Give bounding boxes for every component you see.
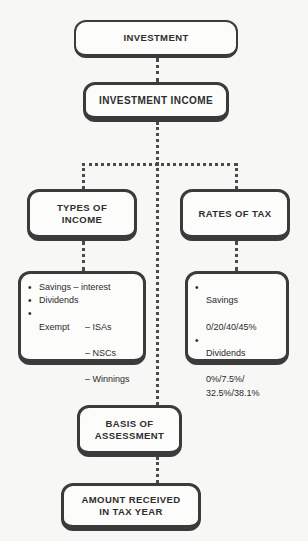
- list-item: • Dividends: [28, 294, 137, 307]
- list-item-exempt-row: Exempt – ISAs: [39, 321, 137, 334]
- node-rates-of-tax-label: RATES OF TAX: [198, 208, 271, 220]
- flowchart-canvas: INVESTMENT INVESTMENT INCOME TYPES OF IN…: [0, 0, 308, 541]
- node-amount-received-label: AMOUNT RECEIVED IN TAX YEAR: [82, 494, 181, 518]
- node-amount-received[interactable]: AMOUNT RECEIVED IN TAX YEAR: [61, 483, 201, 531]
- bullet-icon: •: [28, 307, 39, 320]
- bullet-icon: •: [195, 334, 206, 347]
- types-list: • Savings – interest • Dividends • Exemp…: [28, 281, 137, 400]
- rates-list: • Savings 0/20/40/45% • Dividends 0%/7.5…: [195, 281, 280, 400]
- connector-branch-right-drop: [235, 163, 241, 189]
- list-subitem-winnings: – Winnings: [85, 373, 130, 386]
- node-types-of-income-list[interactable]: • Savings – interest • Dividends • Exemp…: [18, 271, 146, 365]
- node-investment-income-label: INVESTMENT INCOME: [99, 95, 213, 107]
- list-item: • Savings – interest: [28, 281, 137, 294]
- connector-center-spine: [156, 163, 162, 417]
- connector-investment-to-income: [156, 58, 162, 82]
- node-rates-of-tax[interactable]: RATES OF TAX: [180, 189, 290, 241]
- node-basis-of-assessment-label: BASIS OF ASSESSMENT: [95, 418, 164, 442]
- node-investment[interactable]: INVESTMENT: [74, 20, 238, 58]
- connector-rates-to-list: [235, 241, 241, 271]
- list-item: • Dividends 0%/7.5%/ 32.5%/38.1%: [195, 334, 280, 400]
- node-types-of-income-label: TYPES OF INCOME: [57, 202, 107, 226]
- list-item-label: Savings – interest: [39, 281, 137, 294]
- node-basis-of-assessment[interactable]: BASIS OF ASSESSMENT: [77, 405, 182, 457]
- list-item-label: Exempt: [39, 321, 85, 334]
- rates-item-value: 0/20/40/45%: [206, 321, 257, 334]
- list-item-label: Dividends: [39, 294, 137, 307]
- list-item: • Savings 0/20/40/45%: [195, 281, 280, 334]
- list-subitem-isas: – ISAs: [85, 321, 112, 334]
- rates-item-label: Dividends: [206, 347, 246, 360]
- connector-income-to-branch: [156, 122, 162, 165]
- node-types-of-income[interactable]: TYPES OF INCOME: [27, 189, 137, 241]
- rates-item-value: 0%/7.5%/ 32.5%/38.1%: [206, 373, 260, 399]
- list-subitem-nscs: – NSCs: [85, 347, 116, 360]
- list-item: • Exempt – ISAs – NSCs – Winnings: [28, 307, 137, 399]
- connector-types-to-list: [82, 241, 88, 271]
- node-investment-label: INVESTMENT: [123, 32, 188, 44]
- bullet-icon: •: [28, 281, 39, 294]
- connector-basis-to-amount: [156, 457, 162, 483]
- rates-item-label: Savings: [206, 294, 238, 307]
- node-investment-income[interactable]: INVESTMENT INCOME: [83, 82, 229, 122]
- bullet-icon: •: [195, 281, 206, 294]
- node-rates-of-tax-list[interactable]: • Savings 0/20/40/45% • Dividends 0%/7.5…: [185, 271, 289, 365]
- bullet-icon: •: [28, 294, 39, 307]
- connector-branch-left-drop: [82, 163, 88, 189]
